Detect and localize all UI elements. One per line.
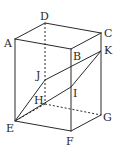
label-G: G	[103, 111, 112, 124]
edge-EF	[15, 121, 71, 131]
label-C: C	[104, 27, 112, 40]
label-H: H	[34, 94, 44, 107]
edge-BA	[15, 39, 71, 49]
prism-diagram: A B C D E F G H I J K	[0, 0, 121, 153]
label-D: D	[40, 10, 49, 23]
edge-DC	[45, 23, 101, 33]
label-A: A	[3, 37, 13, 50]
edge-FG	[71, 115, 101, 131]
label-K: K	[104, 44, 113, 57]
label-J: J	[35, 69, 40, 82]
label-E: E	[6, 122, 14, 135]
label-I: I	[73, 87, 77, 100]
edge-HG	[45, 104, 101, 115]
section-quadrilateral	[15, 51, 101, 121]
vertex-labels: A B C D E F G H I J K	[3, 10, 113, 148]
visible-edges	[15, 23, 101, 131]
edge-CB	[71, 33, 101, 49]
edge-AD	[15, 23, 45, 39]
hidden-edges	[15, 23, 101, 121]
label-B: B	[73, 50, 81, 63]
label-F: F	[66, 135, 74, 148]
